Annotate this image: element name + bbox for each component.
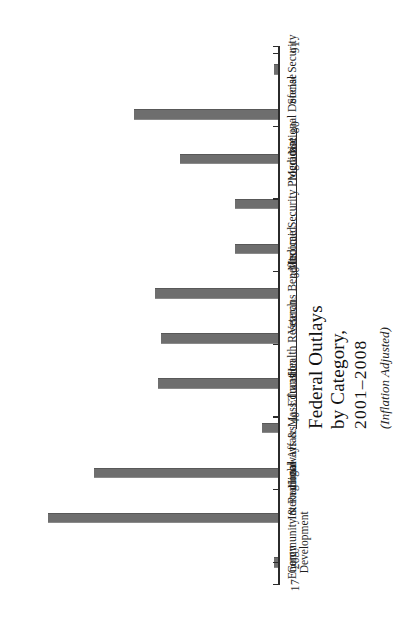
axis-tick (273, 53, 280, 54)
title-block: Federal Outlays by Category, 2001–2008 (… (296, 129, 393, 429)
bar[interactable] (161, 333, 278, 344)
chart-title-line-2: by Category, (327, 129, 349, 429)
bar[interactable] (155, 288, 278, 299)
bar-slot: Social Security (48, 47, 278, 92)
bar-slot: Income Security Programs (48, 182, 278, 227)
chart-title: Federal Outlays by Category, (305, 129, 350, 429)
bar[interactable] (158, 378, 278, 389)
bar-slot: Health Research (48, 316, 278, 361)
axis-tick (273, 416, 280, 417)
axis-tick (273, 46, 280, 47)
bar[interactable] (94, 468, 278, 479)
axis-tick (273, 271, 280, 272)
bar-slot: Veterans Benefits (48, 271, 278, 316)
bar[interactable] (262, 423, 278, 434)
bar-slot: International Affairs (48, 451, 278, 496)
axis-tick-label: 20 (289, 557, 301, 569)
bar[interactable] (48, 513, 278, 524)
axis-tick (273, 562, 280, 563)
bar[interactable] (134, 109, 279, 120)
bar-slot: Education (48, 361, 278, 406)
bar-slot: Energy (48, 540, 278, 585)
axis-tick (273, 584, 280, 585)
bar[interactable] (235, 244, 279, 255)
axis-tick-label: 91 (289, 41, 301, 53)
bar-slot: National Defense (48, 92, 278, 137)
value-axis-line (278, 47, 280, 585)
chart-subtitle: (Inflation Adjusted) (377, 129, 393, 429)
bar[interactable] (180, 154, 279, 165)
bar-series: EnergyCommunity & RegionalDevelopmentInt… (48, 47, 278, 585)
bar-slot: Medicare (48, 137, 278, 182)
axis-tick (273, 126, 280, 127)
axis-tick (273, 489, 280, 490)
bar-slot: Medicaid (48, 226, 278, 271)
plot-area: EnergyCommunity & RegionalDevelopmentInt… (48, 47, 280, 585)
axis-tick (273, 198, 280, 199)
bar-slot: Highways & Mass Transit (48, 406, 278, 451)
chart-title-years: 2001–2008 (350, 129, 372, 429)
axis-tick (273, 344, 280, 345)
bar-slot: Community & RegionalDevelopment (48, 495, 278, 540)
axis-tick-label: 17 (289, 579, 301, 591)
chart-figure: EnergyCommunity & RegionalDevelopmentInt… (0, 0, 405, 643)
bar[interactable] (235, 199, 279, 210)
chart-title-line-1: Federal Outlays (305, 129, 327, 429)
